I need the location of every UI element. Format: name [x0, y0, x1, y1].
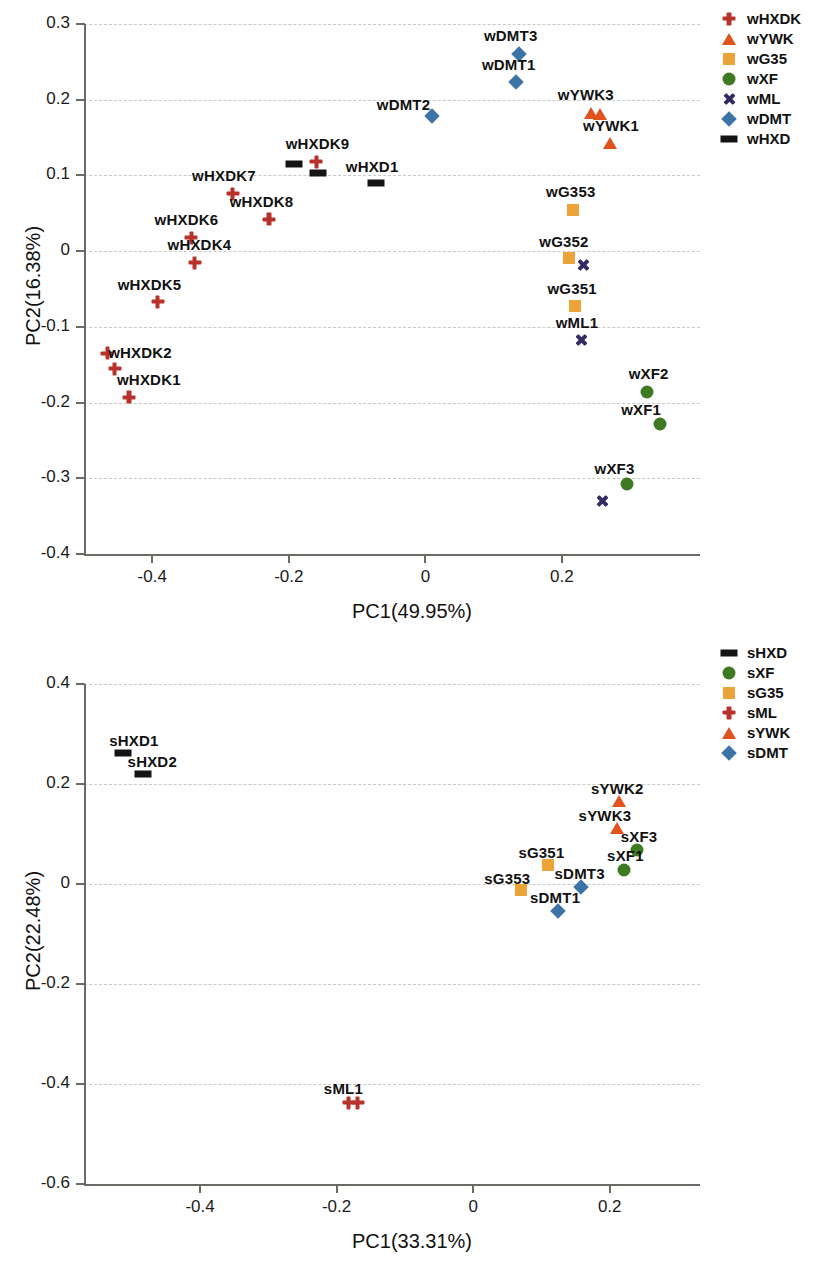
gridline-y — [84, 684, 700, 685]
ytick-label: 0.1 — [12, 164, 70, 184]
ytick-label: -0.4 — [12, 543, 70, 563]
legend-item[interactable]: sYWK — [718, 724, 790, 741]
data-point-label: sHXD1 — [109, 732, 158, 749]
tick-x — [336, 1184, 338, 1193]
xtick-label: 0 — [433, 1197, 513, 1217]
data-point — [563, 200, 583, 220]
data-point — [592, 491, 612, 511]
legend-label: wG35 — [747, 50, 787, 67]
marker-bar — [367, 180, 384, 187]
data-point-label: wHXDK6 — [155, 211, 219, 228]
data-point-label: wHXDK9 — [286, 134, 350, 151]
data-point-label: sXF1 — [607, 847, 644, 864]
marker-square — [542, 859, 554, 871]
legend-label: wXF — [747, 70, 778, 87]
marker-cross — [188, 256, 201, 269]
ytick-label: -0.6 — [12, 1173, 70, 1193]
marker-square — [567, 204, 579, 216]
axis-line-x — [84, 554, 700, 556]
tick-x — [288, 554, 290, 563]
axis-line-x — [84, 1184, 700, 1186]
marker-cross — [723, 706, 736, 719]
data-point — [284, 154, 304, 174]
legend-marker — [718, 70, 740, 87]
legend-label: sXF — [747, 664, 775, 681]
data-point-label: wG353 — [546, 183, 595, 200]
legend-item[interactable]: sML — [718, 704, 790, 721]
marker-bar — [310, 170, 327, 177]
xtick-label: 0.2 — [522, 567, 602, 587]
data-point-label: sG353 — [484, 869, 530, 886]
legend-label: wDMT — [747, 110, 791, 127]
xtick-label: -0.2 — [249, 567, 329, 587]
data-point-label: sHXD2 — [128, 752, 177, 769]
tick-x — [561, 554, 563, 563]
legend-item[interactable]: wXF — [718, 70, 801, 87]
tick-x — [151, 554, 153, 563]
data-point-label: wML1 — [556, 313, 598, 330]
data-point-label: sDMT3 — [555, 865, 605, 882]
gridline-y — [84, 884, 700, 885]
xtick-label: -0.4 — [160, 1197, 240, 1217]
ytick-label: 0.4 — [12, 673, 70, 693]
marker-triangle — [722, 727, 736, 739]
data-point-label: wG352 — [539, 232, 588, 249]
legend-marker — [718, 90, 740, 107]
marker-circle — [653, 417, 666, 430]
data-point — [308, 163, 328, 183]
data-point-label: sML1 — [324, 1080, 363, 1097]
legend-item[interactable]: sG35 — [718, 684, 790, 701]
legend-label: wYWK — [747, 30, 794, 47]
tick-x — [472, 1184, 474, 1193]
axis-line-y — [84, 684, 86, 1184]
tick-y — [76, 477, 85, 479]
data-point-label: sYWK2 — [591, 780, 644, 797]
tick-y — [76, 326, 85, 328]
tick-y — [76, 402, 85, 404]
data-point-label: wHXD1 — [346, 157, 399, 174]
legend-item[interactable]: wG35 — [718, 50, 801, 67]
legend-item[interactable]: sDMT — [718, 744, 790, 761]
legend-marker — [718, 744, 740, 761]
legend-item[interactable]: wYWK — [718, 30, 801, 47]
legend-item[interactable]: wHXD — [718, 130, 801, 147]
data-point — [185, 253, 205, 273]
data-point-label: wHXDK2 — [108, 343, 172, 360]
data-point — [506, 72, 526, 92]
legend-item[interactable]: wML — [718, 90, 801, 107]
legend-item[interactable]: wHXDK — [718, 10, 801, 27]
data-point — [119, 387, 139, 407]
ytick-label: -0.4 — [12, 1073, 70, 1093]
data-point-label: wYWK1 — [583, 116, 639, 133]
gridline-y — [84, 24, 700, 25]
tick-y — [76, 1083, 85, 1085]
marker-cross — [351, 1096, 364, 1109]
legend-item[interactable]: wDMT — [718, 110, 801, 127]
gridline-y — [84, 478, 700, 479]
data-point-label: sDMT1 — [530, 889, 580, 906]
ytick-label: -0.2 — [12, 392, 70, 412]
tick-y — [76, 983, 85, 985]
legend-item[interactable]: sXF — [718, 664, 790, 681]
ytick-label: 0.2 — [12, 89, 70, 109]
tick-y — [76, 883, 85, 885]
marker-x — [577, 258, 590, 271]
marker-cross — [151, 295, 164, 308]
data-point-label: sYWK3 — [579, 807, 632, 824]
marker-cross — [263, 213, 276, 226]
tick-y — [76, 553, 85, 555]
marker-x — [596, 495, 609, 508]
legend: sHXDsXFsG35sMLsYWKsDMT — [718, 644, 790, 764]
data-point-label: wHXDK4 — [168, 235, 232, 252]
legend-marker — [718, 684, 740, 701]
data-point — [617, 474, 637, 494]
marker-circle — [723, 666, 736, 679]
tick-x — [199, 1184, 201, 1193]
legend-marker — [718, 10, 740, 27]
marker-x — [723, 92, 736, 105]
legend-item[interactable]: sHXD — [718, 644, 790, 661]
data-point-label: wHXDK8 — [230, 193, 294, 210]
legend-label: wHXD — [747, 130, 790, 147]
legend-marker — [718, 724, 740, 741]
xtick-label: 0 — [385, 567, 465, 587]
